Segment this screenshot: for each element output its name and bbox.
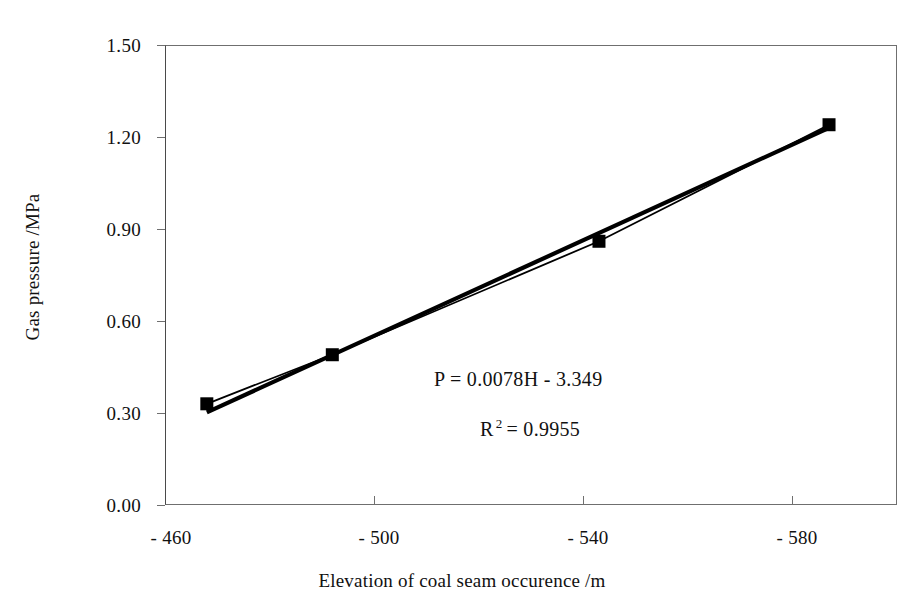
r-squared-exponent: 2	[496, 416, 503, 431]
x-tick-label-540: - 540	[528, 527, 648, 548]
chart-canvas: 1.50 1.20 0.90 0.60 0.30 0.00 - 460 - 50…	[0, 0, 924, 616]
y-tick-mark-1.20	[157, 137, 165, 138]
y-tick-label-wrap-1: 1.50	[26, 36, 141, 55]
y-tick-label-wrap-5: 0.30	[26, 404, 141, 423]
y-tick-mark-0.00	[157, 505, 165, 506]
y-axis-title-wrap: Gas pressure /MPa	[22, 157, 46, 377]
y-tick-label-wrap-6: 0.00	[26, 496, 141, 515]
x-tick-label-500: - 500	[319, 527, 439, 548]
y-axis-title: Gas pressure /MPa	[22, 157, 44, 377]
y-tick-label-1.20: 1.20	[79, 128, 141, 147]
y-tick-mark-1.50	[157, 45, 165, 46]
x-tick-mark-500	[374, 496, 375, 505]
y-tick-label-0.90: 0.90	[79, 220, 141, 239]
r-squared-base: R	[480, 418, 494, 440]
y-tick-label-0.00: 0.00	[79, 496, 141, 515]
y-tick-label-1.50: 1.50	[79, 36, 141, 55]
x-tick-mark-580	[792, 496, 793, 505]
x-axis-title: Elevation of coal seam occurence /m	[0, 570, 924, 592]
x-tick-label-460: - 460	[111, 527, 231, 548]
annotation-regression-equation: P = 0.0078H - 3.349	[434, 368, 602, 391]
x-tick-label-580: - 580	[737, 527, 857, 548]
r-squared-value: 0.9955	[523, 418, 580, 440]
x-tick-mark-540	[583, 496, 584, 505]
y-tick-mark-0.90	[157, 229, 165, 230]
y-tick-label-0.30: 0.30	[79, 404, 141, 423]
y-tick-mark-0.30	[157, 413, 165, 414]
y-tick-mark-0.60	[157, 321, 165, 322]
y-tick-label-0.60: 0.60	[79, 312, 141, 331]
y-tick-label-wrap-2: 1.20	[26, 128, 141, 147]
r-squared-equals: =	[506, 418, 518, 440]
annotation-r-squared: R2= 0.9955	[480, 416, 580, 441]
